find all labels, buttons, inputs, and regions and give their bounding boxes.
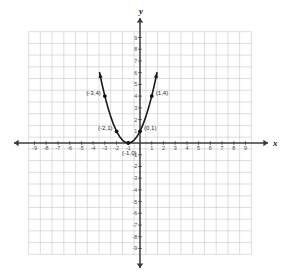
y-tick-label: 9 [134,35,137,41]
x-tick-label: 4 [185,145,188,151]
x-tick-label: -2 [114,145,119,151]
y-tick-label: 6 [134,70,137,76]
graph-canvas: -9-8-7-6-5-4-3-2-1123456789987654321-1-2… [0,0,282,278]
y-tick-label: 5 [134,81,137,87]
point-label: (0,1) [144,124,157,131]
x-tick-label: 6 [209,145,212,151]
y-tick-label: 1 [134,128,137,134]
point-label: (-2,1) [98,124,113,131]
point-label: (-3,4) [86,89,101,96]
y-tick-label: 2 [134,117,137,123]
y-tick-label: -2 [132,163,137,169]
x-tick-label: 2 [162,145,165,151]
data-point [115,129,119,133]
x-tick-label: -5 [79,145,84,151]
y-tick-label: -6 [132,210,137,216]
y-tick-label: 8 [134,46,137,52]
y-tick-label: -8 [132,234,137,240]
y-tick-label: -4 [132,187,137,193]
x-tick-label: -8 [44,145,49,151]
coordinate-graph: -9-8-7-6-5-4-3-2-1123456789987654321-1-2… [0,0,282,278]
y-tick-label: -5 [132,199,137,205]
point-label: (-1,0) [122,149,137,156]
x-tick-label: 3 [174,145,177,151]
x-tick-label: -4 [91,145,96,151]
data-point [126,141,130,145]
data-point [138,129,142,133]
x-tick-label: -6 [67,145,72,151]
y-tick-label: 7 [134,58,137,64]
y-tick-label: -7 [132,222,137,228]
point-label: (1,4) [156,89,169,96]
data-point [103,94,107,98]
x-tick-label: 5 [197,145,200,151]
x-tick-label: 9 [244,145,247,151]
x-tick-label: 1 [150,145,153,151]
y-tick-label: 4 [134,93,137,99]
x-tick-label: -7 [56,145,61,151]
x-tick-label: -3 [102,145,107,151]
data-point [150,94,154,98]
x-tick-label: 7 [221,145,224,151]
x-tick-label: 8 [232,145,235,151]
x-tick-label: -9 [32,145,37,151]
x-axis-label: x [272,138,278,148]
y-tick-label: 3 [134,105,137,111]
y-tick-label: -9 [132,245,137,251]
y-tick-label: -3 [132,175,137,181]
